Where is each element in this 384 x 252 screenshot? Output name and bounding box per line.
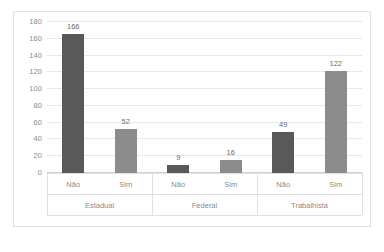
- category-axis-label: Sim: [119, 179, 132, 188]
- gridline: 180: [47, 21, 362, 22]
- bar: 122: [325, 71, 347, 173]
- y-axis-tick-label: 80: [33, 100, 42, 109]
- axis-separator: [152, 173, 153, 194]
- axis-separator: [362, 173, 363, 194]
- y-axis-tick-label: 100: [29, 84, 42, 93]
- y-axis-tick-label: 20: [33, 151, 42, 160]
- bar: 166: [62, 34, 84, 173]
- bar-rect: [62, 34, 84, 173]
- y-axis-tick-label: 0: [38, 168, 42, 177]
- axis-tier-divider: [47, 215, 362, 216]
- bar-value-label: 166: [67, 22, 80, 31]
- group-tier: EstadualFederalTrabalhista: [47, 194, 362, 215]
- bar: 9: [167, 165, 189, 173]
- gridline: 80: [47, 105, 362, 106]
- bar-chart: 1801601401201008060402001665291649122 Nã…: [13, 11, 371, 227]
- axis-tier-divider: [47, 173, 362, 174]
- gridline: 140: [47, 55, 362, 56]
- bar-rect: [167, 165, 189, 173]
- bar-rect: [115, 129, 137, 173]
- y-axis-tick-label: 40: [33, 134, 42, 143]
- y-axis-tick-label: 180: [29, 17, 42, 26]
- bar-value-label: 49: [279, 120, 287, 129]
- group-axis-label: Estadual: [85, 200, 114, 209]
- axis-separator: [257, 194, 258, 215]
- bar: 52: [115, 129, 137, 173]
- axis-separator: [152, 194, 153, 215]
- axis-separator: [362, 194, 363, 215]
- axis-separator: [47, 173, 48, 194]
- bar-value-label: 9: [176, 153, 180, 162]
- gridline: 20: [47, 155, 362, 156]
- bar-rect: [220, 160, 242, 173]
- bar-value-label: 122: [329, 59, 342, 68]
- group-axis-label: Trabalhista: [291, 200, 328, 209]
- bar-value-label: 52: [122, 117, 130, 126]
- group-axis-label: Federal: [192, 200, 217, 209]
- axis-tier-divider: [47, 194, 362, 195]
- y-axis-tick-label: 160: [29, 33, 42, 42]
- axis-separator: [257, 173, 258, 194]
- bar: 49: [272, 132, 294, 173]
- bar-value-label: 16: [227, 148, 235, 157]
- plot-area: 1801601401201008060402001665291649122: [47, 22, 362, 173]
- y-axis-tick-label: 60: [33, 117, 42, 126]
- category-axis-label: Não: [66, 179, 80, 188]
- category-axis-label: Não: [171, 179, 185, 188]
- gridline: 160: [47, 38, 362, 39]
- category-tier: NãoSimNãoSimNãoSim: [47, 173, 362, 194]
- y-axis-tick-label: 120: [29, 67, 42, 76]
- gridline: 120: [47, 71, 362, 72]
- bar: 16: [220, 160, 242, 173]
- bar-rect: [325, 71, 347, 173]
- category-axis-label: Sim: [329, 179, 342, 188]
- category-axis: NãoSimNãoSimNãoSim EstadualFederalTrabal…: [47, 173, 362, 216]
- category-axis-label: Não: [276, 179, 290, 188]
- category-axis-label: Sim: [224, 179, 237, 188]
- axis-separator: [47, 194, 48, 215]
- gridline: 60: [47, 122, 362, 123]
- bar-rect: [272, 132, 294, 173]
- gridline: 100: [47, 88, 362, 89]
- gridline: 40: [47, 138, 362, 139]
- y-axis-tick-label: 140: [29, 50, 42, 59]
